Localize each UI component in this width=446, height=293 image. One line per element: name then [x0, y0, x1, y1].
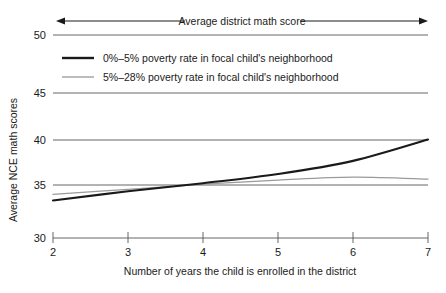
chart-background	[0, 0, 446, 293]
x-tick-label-5: 5	[275, 246, 281, 258]
line-chart: 50 45 40 35 30 2 3 4 5 6 7 Number of yea…	[0, 0, 446, 293]
y-tick-label-35: 35	[34, 179, 46, 191]
y-axis-title: Average NCE math scores	[7, 98, 19, 222]
y-tick-label-50: 50	[34, 29, 46, 41]
x-tick-label-3: 3	[125, 246, 131, 258]
y-tick-label-45: 45	[34, 87, 46, 99]
x-tick-label-7: 7	[425, 246, 431, 258]
y-tick-label-40: 40	[34, 134, 46, 146]
x-axis-title: Number of years the child is enrolled in…	[124, 265, 356, 277]
x-tick-label-6: 6	[350, 246, 356, 258]
chart-figure: 50 45 40 35 30 2 3 4 5 6 7 Number of yea…	[0, 0, 446, 293]
y-tick-label-30: 30	[34, 232, 46, 244]
annotation-label: Average district math score	[178, 15, 305, 27]
legend-label-series-2: 5%–28% poverty rate in focal child's nei…	[103, 71, 339, 83]
x-tick-label-2: 2	[50, 246, 56, 258]
legend-label-series-1: 0%–5% poverty rate in focal child's neig…	[103, 52, 333, 64]
x-tick-label-4: 4	[200, 246, 206, 258]
